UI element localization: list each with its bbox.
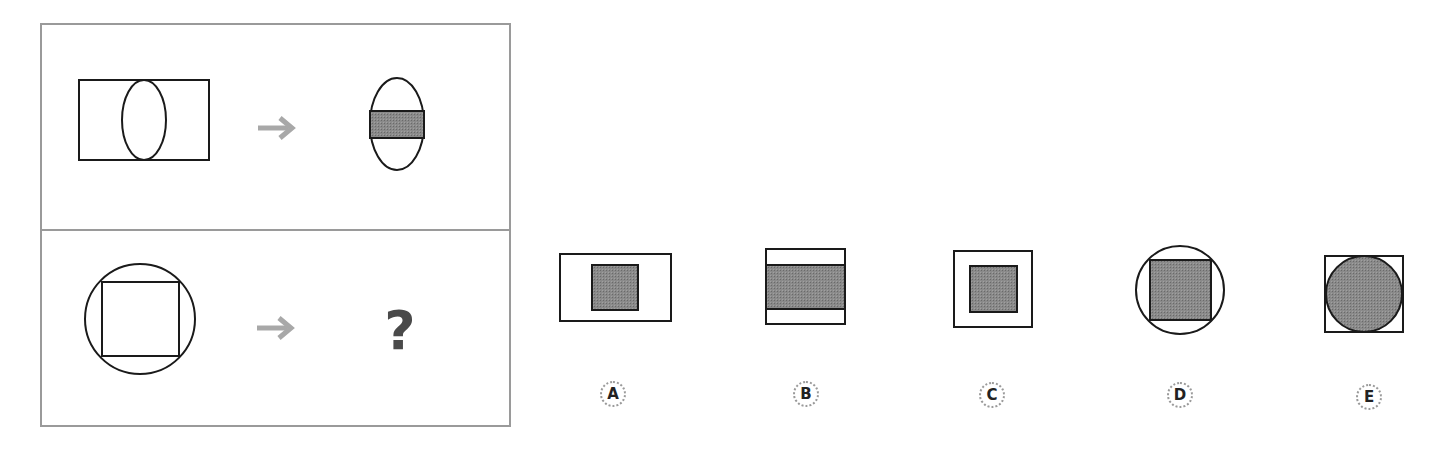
option-a-label[interactable]: A xyxy=(600,381,626,407)
puzzle-canvas xyxy=(0,0,1431,457)
option-b-figure[interactable] xyxy=(766,249,845,324)
option-d-figure[interactable] xyxy=(1136,246,1224,334)
arrow-right-icon xyxy=(257,318,291,338)
example-source-figure xyxy=(79,80,209,160)
option-a-figure[interactable] xyxy=(560,254,671,321)
option-c-label[interactable]: C xyxy=(979,382,1005,408)
question-source-figure xyxy=(85,264,195,374)
question-mark: ? xyxy=(375,296,425,366)
option-c-figure[interactable] xyxy=(954,251,1032,327)
option-e-label[interactable]: E xyxy=(1356,384,1382,410)
option-e-figure[interactable] xyxy=(1325,256,1403,332)
arrow-right-icon xyxy=(258,118,292,138)
option-d-label[interactable]: D xyxy=(1167,382,1193,408)
example-result-figure xyxy=(370,78,424,170)
option-b-label[interactable]: B xyxy=(793,381,819,407)
